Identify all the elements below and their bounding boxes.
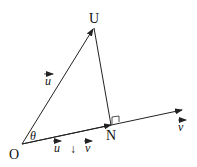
point-N-label: N <box>106 128 116 143</box>
svg-text:u: u <box>54 141 60 155</box>
vector-v-label: v <box>178 120 186 134</box>
vector-u-line <box>22 29 93 144</box>
svg-text:u: u <box>45 74 51 88</box>
svg-text:↓: ↓ <box>70 142 76 156</box>
point-U-label: U <box>89 11 99 26</box>
segment-UN <box>94 28 111 125</box>
vector-u-label: u <box>44 74 53 88</box>
angle-theta-label: θ <box>30 129 36 143</box>
vector-diagram: U O N θ u v u ↓ v <box>0 0 197 167</box>
projection-label: u ↓ v <box>53 141 92 156</box>
svg-text:v: v <box>178 120 184 134</box>
right-angle-marker <box>112 116 119 124</box>
point-O-label: O <box>9 147 19 162</box>
svg-text:v: v <box>85 141 91 155</box>
